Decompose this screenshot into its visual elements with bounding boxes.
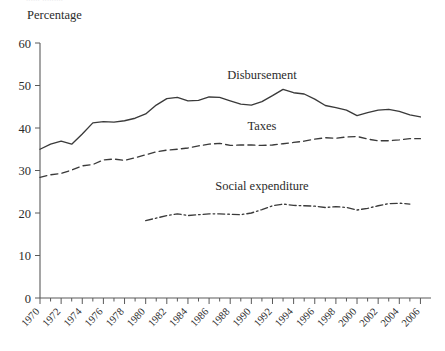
x-tick-label: 2002	[357, 306, 379, 329]
line-chart-plot: 0102030405060 19701972197419761978198019…	[0, 0, 445, 351]
x-tick-label: 1988	[209, 306, 231, 329]
y-tick-label: 60	[19, 37, 32, 51]
x-tick-label: 1994	[273, 305, 296, 328]
series-label-taxes: Taxes	[247, 119, 276, 133]
x-tick-label: 1986	[188, 306, 210, 329]
series-label-disbursement: Disbursement	[227, 68, 297, 82]
x-tick-label: 2000	[336, 306, 358, 329]
y-tick-label: 20	[19, 207, 32, 221]
x-tick-label: 1984	[167, 305, 190, 328]
series-label-social-expenditure: Social expenditure	[215, 179, 309, 193]
x-tick-label: 1974	[61, 305, 84, 328]
x-tick-label: 1980	[125, 306, 147, 329]
x-tick-label: 2004	[378, 305, 401, 328]
x-tick-label: 2006	[400, 306, 422, 329]
series-layer	[40, 89, 420, 220]
series-line-disbursement	[40, 89, 420, 149]
y-tick-label: 40	[19, 122, 32, 136]
x-tick-label: 1990	[230, 306, 252, 329]
x-tick-labels: 1970197219741976197819801982198419861988…	[19, 305, 422, 328]
x-tick-label: 1978	[104, 306, 126, 329]
x-tick-label: 1970	[19, 306, 41, 329]
chart-container: ...... ......... Percentage 010203040506…	[0, 0, 445, 351]
x-tick-label: 1972	[40, 306, 62, 329]
axes-layer	[35, 43, 431, 304]
y-tick-labels: 0102030405060	[19, 37, 32, 306]
y-tick-label: 50	[19, 79, 32, 93]
series-line-taxes	[40, 137, 420, 178]
x-tick-label: 1996	[294, 306, 316, 329]
series-annotations: DisbursementTaxesSocial expenditure	[215, 68, 309, 193]
y-tick-label: 10	[19, 249, 32, 263]
y-tick-label: 30	[19, 164, 32, 178]
series-line-social-expenditure	[146, 203, 410, 220]
x-tick-label: 1982	[146, 306, 168, 329]
x-tick-label: 1992	[252, 306, 274, 329]
x-tick-label: 1998	[315, 306, 337, 329]
x-tick-label: 1976	[83, 306, 105, 329]
y-tick-label: 0	[25, 292, 31, 306]
